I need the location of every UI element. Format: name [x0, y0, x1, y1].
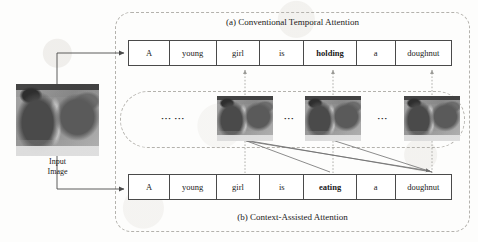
video-frame-1-pixels [217, 96, 273, 141]
video-frame-3-pixels [404, 96, 460, 141]
frame-ellipsis-middle-2: ··· [361, 114, 404, 123]
input-image-caption: Input Image [16, 157, 99, 177]
top-sentence-row: A young girl is holding a doughnut [128, 40, 452, 66]
frame-ellipsis-leading: ··· ··· [140, 114, 206, 123]
bottom-sentence-row: A young girl is eating a doughnut [128, 174, 452, 200]
top-word-0: A [129, 41, 170, 65]
bottom-word-3: is [260, 175, 304, 199]
bottom-word-2: girl [217, 175, 261, 199]
top-word-6: doughnut [396, 41, 451, 65]
video-frame-2-pixels [305, 96, 361, 141]
bottom-word-6: doughnut [396, 175, 451, 199]
top-word-1: young [170, 41, 217, 65]
bottom-word-1: young [170, 175, 217, 199]
figure-canvas: (a) Conventional Temporal Attention (b) … [0, 0, 478, 242]
input-image-pixels [16, 84, 99, 156]
bottom-word-5: a [357, 175, 396, 199]
top-word-5: a [357, 41, 396, 65]
frame-ellipsis-middle-1: ··· [273, 114, 305, 123]
top-word-3: is [260, 41, 304, 65]
input-image [16, 84, 99, 156]
video-frame-2 [305, 96, 361, 141]
video-frame-3 [404, 96, 460, 141]
context-assisted-attention-lines [244, 140, 432, 172]
bottom-word-4: eating [304, 175, 357, 199]
bottom-word-0: A [129, 175, 170, 199]
video-frame-1 [217, 96, 273, 141]
top-word-2: girl [217, 41, 261, 65]
top-word-4: holding [304, 41, 357, 65]
